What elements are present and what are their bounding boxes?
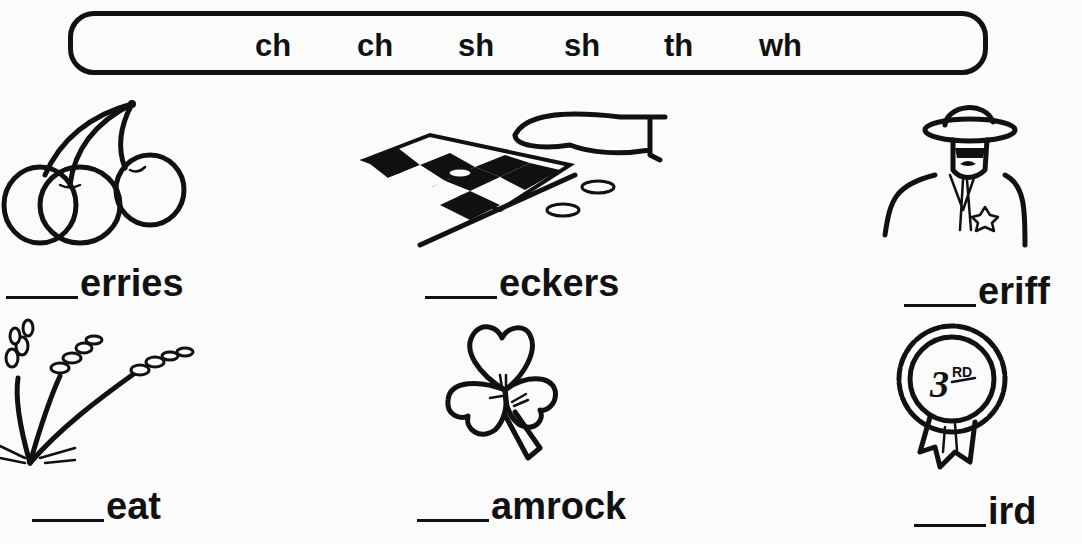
word-bank-item: wh: [759, 28, 802, 64]
exercise-wheat: eat: [32, 485, 161, 528]
answer-blank[interactable]: [32, 518, 104, 522]
exercise-sheriff: eriff: [904, 270, 1050, 313]
word-bank-item: sh: [564, 28, 600, 64]
exercise-shamrock: amrock: [417, 485, 626, 528]
word-suffix: eckers: [499, 262, 619, 305]
shamrock-icon: [440, 320, 570, 470]
answer-blank[interactable]: [6, 295, 78, 299]
word-bank-item: sh: [458, 28, 494, 64]
exercise-checkers: eckers: [425, 262, 619, 305]
svg-text:RD: RD: [952, 364, 972, 380]
word-bank-item: ch: [255, 28, 291, 64]
wheat-icon: [0, 318, 210, 468]
word-bank: ch ch sh sh th wh: [68, 11, 988, 75]
checkers-icon: [360, 105, 670, 250]
word-suffix: ird: [988, 490, 1037, 533]
answer-blank[interactable]: [904, 303, 976, 307]
word-suffix: eriff: [978, 270, 1050, 313]
third-place-ribbon-icon: 3 RD: [895, 322, 1015, 472]
sheriff-icon: [875, 100, 1035, 250]
answer-blank[interactable]: [914, 523, 986, 527]
word-suffix: amrock: [491, 485, 626, 528]
answer-blank[interactable]: [417, 518, 489, 522]
cherries-icon: [0, 100, 200, 250]
exercise-third: ird: [914, 490, 1037, 533]
ribbon-text: 3: [929, 363, 949, 405]
word-suffix: eat: [106, 485, 161, 528]
word-bank-item: ch: [357, 28, 393, 64]
word-suffix: erries: [80, 262, 184, 305]
exercise-cherries: erries: [6, 262, 184, 305]
word-bank-item: th: [664, 28, 693, 64]
answer-blank[interactable]: [425, 295, 497, 299]
